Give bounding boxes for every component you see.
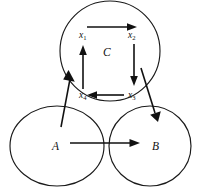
edge-x4-to-x1 xyxy=(79,45,87,89)
edge-C-to-B xyxy=(141,68,161,122)
edge-A-to-B xyxy=(70,139,140,147)
set-label-A: A xyxy=(51,140,60,152)
set-label-C: C xyxy=(103,46,111,58)
node-label-x1: x1 xyxy=(78,30,87,41)
node-x2-sub: 2 xyxy=(132,34,135,41)
set-outline-B xyxy=(109,106,191,186)
node-x3-sub: 3 xyxy=(132,94,136,101)
edge-A-to-C xyxy=(61,70,75,127)
diagram-canvas: x1 x2 x3 x4 C A B xyxy=(0,0,197,191)
diagram-svg: x1 x2 x3 x4 C A B xyxy=(0,0,197,191)
edge-x2-to-x3 xyxy=(130,44,138,86)
node-label-x2: x2 xyxy=(127,30,136,41)
set-label-B: B xyxy=(152,140,159,152)
node-x1-sub: 1 xyxy=(83,34,86,41)
node-label-x3: x3 xyxy=(127,90,136,101)
node-label-x4: x4 xyxy=(78,90,87,101)
